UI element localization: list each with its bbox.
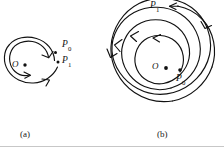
panel-b-p0-base: P [176, 73, 182, 83]
panel-b-caption: (b) [157, 130, 168, 139]
panel-a-p0-base: P [62, 39, 68, 49]
panel-a-center-dot [23, 63, 26, 66]
panel-b-center-label: O [152, 62, 159, 71]
panel-b-graphic [107, 0, 215, 102]
panel-a-label-p1: P1 [62, 56, 71, 68]
panel-b-p1-subscript: 1 [156, 6, 159, 13]
panel-b-p1-base: P [150, 0, 156, 10]
panel-a-p1-dot [57, 61, 60, 64]
panel-b-label-p0: P0 [176, 74, 185, 86]
panel-b-p0-dot [178, 68, 182, 72]
panel-b-arrowhead-left [115, 40, 123, 52]
panel-a-label-p0: P0 [62, 40, 71, 52]
panel-a-p1-subscript: 1 [68, 61, 71, 68]
panel-b-spiral-turn-4 [111, 0, 211, 102]
panel-a-center-label: O [12, 60, 19, 69]
spiral-figure-svg [0, 0, 224, 148]
panel-a-arrowhead-outer [42, 79, 50, 86]
panel-a-p1-base: P [62, 55, 68, 65]
panel-b-label-p1: P1 [150, 1, 159, 13]
panel-b-arrowhead-upper-left [131, 32, 139, 42]
panel-a-p0-subscript: 0 [68, 45, 71, 52]
panel-a-p0-dot [54, 51, 57, 54]
figure-root: O P0 P1 (a) O P1 P0 (b) [0, 0, 224, 148]
panel-b-center-dot [164, 66, 168, 70]
panel-b-p0-subscript: 0 [182, 79, 185, 86]
panel-a-caption: (a) [20, 130, 30, 139]
